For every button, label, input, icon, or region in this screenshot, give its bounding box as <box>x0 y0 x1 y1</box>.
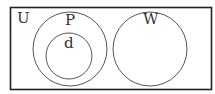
universe-label: U <box>17 9 30 27</box>
set-d-label: d <box>64 34 74 52</box>
venn-diagram: U P d W <box>0 0 215 94</box>
set-p-label: P <box>65 11 75 29</box>
set-w-label: W <box>143 10 159 28</box>
universe-rectangle <box>11 8 212 90</box>
